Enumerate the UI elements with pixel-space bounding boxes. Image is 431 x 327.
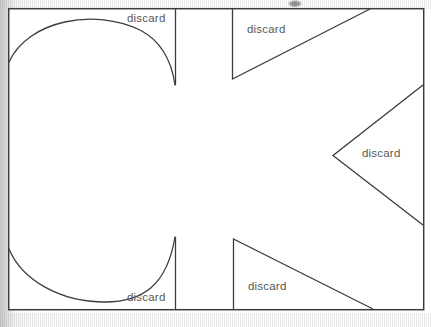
work-rectangle-outline bbox=[9, 9, 424, 310]
discard-label-right-middle: discard bbox=[362, 147, 400, 159]
discard-label-top-right: discard bbox=[247, 23, 285, 35]
discard-label-top-left: discard bbox=[127, 12, 165, 24]
discard-diagram bbox=[0, 0, 431, 327]
discard-label-bottom-left: discard bbox=[127, 291, 165, 303]
scanned-page: discard discard discard discard discard bbox=[0, 0, 431, 327]
discard-label-bottom-right: discard bbox=[248, 280, 286, 292]
